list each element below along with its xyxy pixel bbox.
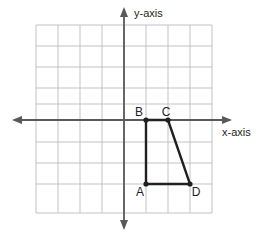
x-axis-label: x-axis [222, 126, 251, 138]
vertex-point-a [143, 181, 148, 186]
y-axis-label: y-axis [134, 7, 163, 19]
y-axis-arrow-down-icon [120, 220, 128, 230]
y-axis [120, 7, 128, 230]
vertex-label-b: B [135, 105, 143, 119]
vertex-label-a: A [136, 185, 144, 199]
coordinate-plane-svg: y-axis x-axis A B C D [0, 0, 266, 240]
x-axis [12, 116, 232, 124]
coordinate-plane-figure: y-axis x-axis A B C D [0, 0, 266, 240]
x-axis-arrow-right-icon [222, 116, 232, 124]
vertex-label-d: D [192, 185, 201, 199]
x-axis-arrow-left-icon [12, 116, 22, 124]
vertex-point-b [143, 117, 148, 122]
y-axis-arrow-up-icon [120, 7, 128, 17]
vertex-label-c: C [162, 105, 171, 119]
